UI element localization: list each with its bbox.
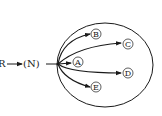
arrow-to-a <box>58 63 71 64</box>
intermediate-label: (N) <box>23 58 40 69</box>
node-d-label: D <box>125 69 131 78</box>
enclosing-circle <box>57 23 153 107</box>
node-a-label: A <box>74 58 81 67</box>
node-d: D <box>123 68 133 78</box>
source-label: R <box>0 58 6 69</box>
arrow-to-c <box>58 43 121 64</box>
node-b: B <box>91 29 101 39</box>
arrow-to-d <box>58 64 121 73</box>
reaction-diagram: R (N) B C A D E <box>0 0 162 116</box>
node-e-label: E <box>93 83 99 92</box>
arrow-to-e <box>58 64 90 87</box>
node-c-label: C <box>125 40 131 49</box>
node-a: A <box>73 57 83 67</box>
node-e: E <box>91 82 101 92</box>
node-b-label: B <box>93 30 99 39</box>
node-c: C <box>123 39 133 49</box>
